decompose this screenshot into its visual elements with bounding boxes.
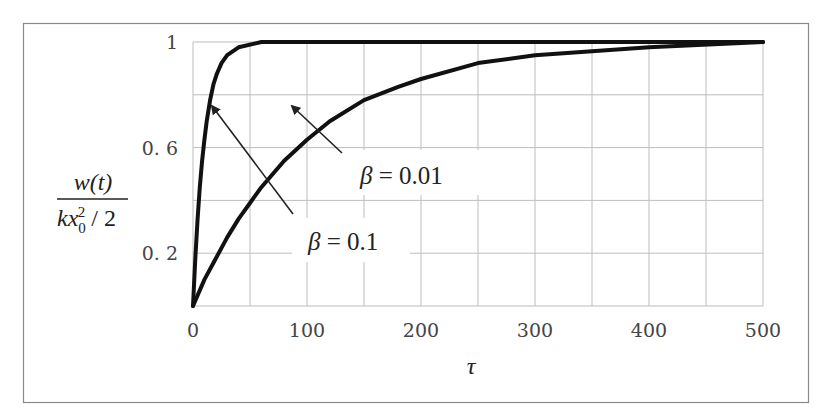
annotation-beta-01: β = 0.1 (307, 228, 378, 255)
x-tick-label: 0 (187, 319, 199, 341)
annotation-beta-001: β = 0.01 (359, 162, 443, 189)
y-tick-label: 1 (166, 31, 178, 53)
x-axis-label: τ (467, 353, 477, 379)
x-tick-label: 200 (403, 319, 439, 341)
x-tick-label: 100 (289, 319, 325, 341)
y-tick-label: 0. 2 (142, 242, 178, 264)
y-label-numerator: w(t) (74, 169, 113, 195)
y-tick-label: 0. 6 (142, 137, 178, 159)
chart: 01002003004005000. 20. 61 w(t) kx02 / 2 … (0, 0, 826, 417)
x-tick-label: 400 (631, 319, 667, 341)
x-tick-label: 500 (745, 319, 781, 341)
x-tick-label: 300 (517, 319, 553, 341)
